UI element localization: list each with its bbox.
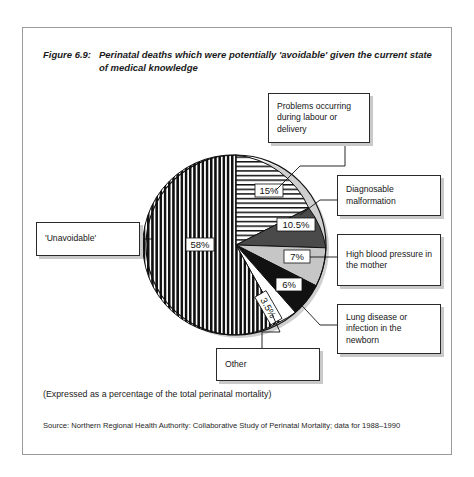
callout-lung-disease[interactable]: Lung disease or infection in the newborn <box>337 304 441 354</box>
callout-unavoidable[interactable]: 'Unavoidable' <box>36 222 140 256</box>
figure-number-label: Figure 6.9: <box>43 48 99 61</box>
callout-malformation[interactable]: Diagnosable malformation <box>337 175 441 216</box>
callout-labour-label: Problems occurring during labour or deli… <box>277 101 361 136</box>
source-note: Source: Northern Regional Health Authori… <box>43 420 400 431</box>
callout-labour[interactable]: Problems occurring during labour or deli… <box>268 93 370 143</box>
callout-malformation-label: Diagnosable malformation <box>346 184 432 207</box>
page-title: Perinatal deaths which were potentially … <box>99 48 435 74</box>
callout-blood-pressure-label: High blood pressure in the mother <box>346 249 432 272</box>
percentage-note: (Expressed as a percentage of the total … <box>43 388 271 400</box>
figure-title-row: Figure 6.9: Perinatal deaths which were … <box>43 48 435 74</box>
callout-unavoidable-label: 'Unavoidable' <box>45 233 96 245</box>
callout-lung-disease-label: Lung disease or infection in the newborn <box>346 312 432 347</box>
callout-other-label: Other <box>225 359 247 371</box>
callout-other[interactable]: Other <box>216 348 320 381</box>
callout-blood-pressure[interactable]: High blood pressure in the mother <box>337 234 441 286</box>
